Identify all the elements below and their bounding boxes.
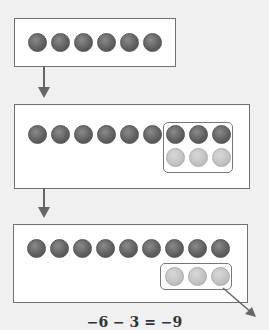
dark-chip: [189, 125, 208, 144]
light-chip: [212, 148, 231, 167]
dark-chip: [143, 125, 162, 144]
dark-chip: [97, 33, 116, 52]
dark-chip: [96, 239, 115, 258]
light-chip: [211, 267, 230, 286]
dark-chip: [143, 33, 162, 52]
light-chip: [166, 148, 185, 167]
dark-chip: [74, 125, 93, 144]
dark-chip: [212, 125, 231, 144]
light-chip: [189, 148, 208, 167]
step1-box: [14, 18, 176, 67]
dark-chip: [120, 125, 139, 144]
dark-chip: [51, 125, 70, 144]
dark-chip: [51, 33, 70, 52]
dark-chip: [142, 239, 161, 258]
step3-box: [13, 224, 248, 303]
dark-chip: [166, 125, 185, 144]
dark-chip: [50, 239, 69, 258]
dark-chip: [188, 239, 207, 258]
light-chip: [188, 267, 207, 286]
dark-chip: [97, 125, 116, 144]
arrowhead-icon: [38, 207, 50, 218]
dark-chip: [27, 239, 46, 258]
dark-chip: [28, 33, 47, 52]
dark-chip: [120, 33, 139, 52]
dark-chip: [28, 125, 47, 144]
arrowhead-icon: [38, 87, 50, 98]
dark-chip: [119, 239, 138, 258]
dark-chip: [74, 33, 93, 52]
dark-chip: [211, 239, 230, 258]
dark-chip: [73, 239, 92, 258]
light-chip: [165, 267, 184, 286]
equation: −6 − 3 = −9: [0, 314, 269, 330]
dark-chip: [165, 239, 184, 258]
step2-box: [14, 104, 250, 189]
